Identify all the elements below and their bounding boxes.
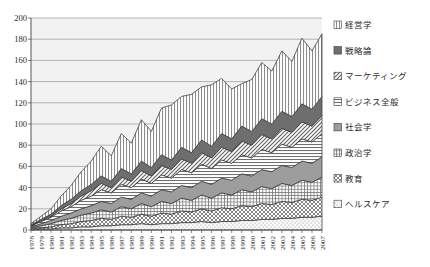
x-tick-label: 1995 (199, 236, 207, 251)
y-tick-label: 160 (14, 55, 27, 65)
legend-label: 社会学 (345, 122, 372, 132)
x-tick-label: 1988 (128, 236, 136, 251)
x-tick-label: 1981 (58, 236, 66, 251)
legend-swatch (334, 149, 342, 157)
y-tick-label: 80 (19, 140, 28, 150)
legend-swatch (334, 175, 342, 183)
legend-label: 経営学 (345, 20, 372, 30)
x-tick-label: 1980 (48, 236, 56, 251)
x-tick-label: 1990 (148, 236, 156, 251)
x-tick-label: 2007 (319, 236, 327, 251)
chart-container: 020406080100120140160180200 197819791980… (0, 0, 430, 267)
y-tick-label: 180 (14, 34, 27, 44)
x-tick-label: 1982 (68, 236, 76, 251)
x-tick-label: 1989 (138, 236, 146, 251)
x-tick-label: 1994 (189, 236, 197, 251)
stacked-area-chart: 020406080100120140160180200 197819791980… (0, 0, 430, 267)
x-tick-label: 1999 (239, 236, 247, 251)
x-tick-label: 1983 (78, 236, 86, 251)
x-tick-label: 1997 (219, 236, 227, 251)
x-tick-label: 2006 (309, 236, 317, 251)
x-tick-label: 1984 (88, 236, 96, 251)
y-tick-label: 0 (23, 225, 27, 235)
legend-swatch (334, 98, 342, 106)
y-tick-label: 200 (14, 13, 27, 23)
legend-label: 戦略論 (345, 46, 372, 56)
y-tick-label: 20 (19, 204, 28, 214)
x-tick-label: 1991 (158, 236, 166, 251)
y-tick-label: 40 (19, 183, 28, 193)
x-tick-label: 1993 (179, 236, 187, 251)
legend-swatch (334, 47, 342, 55)
x-tick-label: 1986 (108, 236, 116, 251)
legend-swatch (334, 72, 342, 80)
legend-swatch (334, 21, 342, 29)
x-tick-label: 1996 (209, 236, 217, 251)
y-tick-label: 140 (14, 77, 27, 87)
x-tick-label: 2002 (269, 236, 277, 251)
x-tick-label: 1985 (98, 236, 106, 251)
y-tick-label: 100 (14, 119, 27, 129)
x-tick-label: 1998 (229, 236, 237, 251)
x-tick-label: 1987 (118, 236, 126, 251)
legend-swatch (334, 123, 342, 130)
legend-swatch (334, 200, 342, 208)
legend-label: ビジネス全般 (345, 97, 399, 107)
chart-legend: 経営学戦略論マーケティングビジネス全般社会学政治学教育ヘルスケア (334, 20, 407, 209)
y-tick-label: 60 (19, 161, 28, 171)
legend-label: ヘルスケア (345, 199, 390, 209)
x-tick-label: 1979 (38, 236, 46, 251)
x-axis-labels: 1978197919801981198219831984198519861987… (28, 236, 327, 251)
x-tick-label: 2000 (249, 236, 257, 251)
x-tick-label: 2005 (299, 236, 307, 251)
y-axis-labels: 020406080100120140160180200 (14, 13, 31, 235)
x-tick-label: 2004 (289, 236, 297, 251)
x-tick-label: 1978 (28, 236, 36, 251)
y-tick-label: 120 (14, 98, 27, 108)
legend-label: 政治学 (345, 148, 372, 158)
legend-label: 教育 (345, 174, 363, 184)
x-tick-label: 2003 (279, 236, 287, 251)
x-tick-label: 2001 (259, 236, 267, 251)
legend-label: マーケティング (345, 71, 407, 81)
x-tick-label: 1992 (168, 236, 176, 251)
